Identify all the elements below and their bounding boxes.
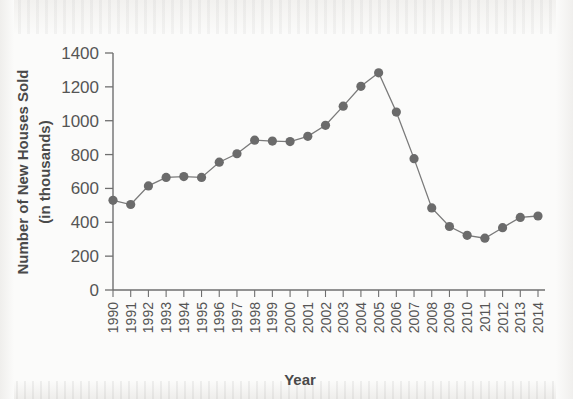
- y-axis: 0200400600800100012001400: [61, 44, 113, 300]
- y-axis-tick-label: 400: [71, 213, 99, 232]
- data-point: 1991: 505: [126, 200, 135, 209]
- data-point: 1997: 805: [232, 149, 241, 158]
- data-point: 2010: 323: [463, 231, 472, 240]
- data-point: 1993: 665: [162, 173, 171, 182]
- data-point: 2013: 429: [516, 213, 525, 222]
- data-point: 2000: 877: [285, 137, 294, 146]
- data-point: 2001: 908: [303, 132, 312, 141]
- data-point: 2014: 437: [533, 211, 542, 220]
- x-axis-tick-label: 1992: [140, 302, 156, 333]
- data-point: 2008: 485: [427, 203, 436, 212]
- x-axis-tick-label: 2011: [477, 302, 493, 332]
- data-point: 2012: 368: [498, 223, 507, 232]
- x-axis-tick-label: 2003: [335, 302, 351, 333]
- x-axis-tick-label: 1993: [158, 302, 174, 333]
- data-line: [113, 73, 538, 238]
- data-point: 1998: 885: [250, 136, 259, 145]
- x-axis-tick-label: 2000: [282, 302, 298, 333]
- data-markers: 1990: 5301991: 5051992: 6151993: 6651994…: [108, 68, 542, 243]
- x-axis-tick-label: 1991: [123, 302, 139, 333]
- x-axis-tick-label: 2002: [318, 302, 334, 333]
- x-axis-tick-label: 2005: [371, 302, 387, 333]
- data-point: 2011: 306: [480, 234, 489, 243]
- y-axis-tick-label: 1400: [61, 44, 99, 63]
- x-axis-tick-label: 2001: [300, 302, 316, 333]
- x-axis-tick-label: 1995: [194, 302, 210, 333]
- x-axis: 1990199119921993199419951996199719981999…: [105, 290, 546, 333]
- data-point: 2005: 1283: [374, 68, 383, 77]
- data-point: 1990: 530: [108, 196, 117, 205]
- x-axis-tick-label: 1994: [176, 302, 192, 333]
- y-axis-tick-label: 1200: [61, 78, 99, 97]
- data-point: 1996: 755: [215, 158, 224, 167]
- data-point: 1992: 615: [144, 181, 153, 190]
- data-point: 2002: 973: [321, 121, 330, 130]
- y-axis-title-line2: (in thousands): [36, 120, 53, 223]
- y-axis-tick-label: 1000: [61, 112, 99, 131]
- x-axis-tick-label: 2004: [353, 302, 369, 333]
- chart-page: Number of New Houses Sold (in thousands)…: [0, 0, 573, 399]
- x-axis-tick-label: 1997: [229, 302, 245, 333]
- data-point: 1995: 665: [197, 173, 206, 182]
- data-point: 2004: 1203: [356, 82, 365, 91]
- line-chart: Number of New Houses Sold (in thousands)…: [0, 0, 573, 399]
- y-axis-tick-label: 800: [71, 146, 99, 165]
- y-axis-tick-label: 600: [71, 179, 99, 198]
- x-axis-tick-label: 2008: [424, 302, 440, 333]
- data-point: 1999: 880: [268, 136, 277, 145]
- x-axis-tick-label: 2009: [441, 302, 457, 333]
- x-axis-tick-label: 2006: [388, 302, 404, 333]
- x-axis-tick-label: 2007: [406, 302, 422, 333]
- x-axis-tick-label: 2010: [459, 302, 475, 333]
- data-point: 2007: 776: [409, 154, 418, 163]
- x-axis-tick-label: 1999: [264, 302, 280, 333]
- y-axis-tick-label: 0: [90, 281, 99, 300]
- x-axis-tick-label: 1996: [211, 302, 227, 333]
- y-axis-title-line1: Number of New Houses Sold: [14, 69, 31, 274]
- x-axis-tick-label: 1998: [247, 302, 263, 333]
- x-axis-tick-label: 2013: [512, 302, 528, 333]
- y-axis-tick-label: 200: [71, 247, 99, 266]
- data-point: 2003: 1086: [339, 102, 348, 111]
- y-axis-title: Number of New Houses Sold (in thousands): [14, 69, 53, 274]
- data-point: 2006: 1051: [392, 107, 401, 116]
- data-point: 1994: 670: [179, 172, 188, 181]
- x-axis-tick-label: 2014: [530, 302, 546, 333]
- x-axis-tick-label: 1990: [105, 302, 121, 333]
- x-axis-tick-label: 2012: [495, 302, 511, 333]
- x-axis-title: Year: [284, 371, 316, 388]
- data-point: 2009: 375: [445, 222, 454, 231]
